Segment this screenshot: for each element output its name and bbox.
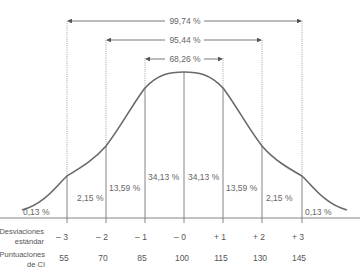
sd-tick: + 1 <box>214 232 226 242</box>
sd-tick: – 2 <box>96 232 108 242</box>
range-68-label: 68,26 % <box>169 54 201 64</box>
band-0-p1-label: 34,13 % <box>188 172 220 182</box>
iq-tick: 130 <box>253 253 267 263</box>
sd-row-label-line1: Desviaciones <box>0 227 44 236</box>
iq-row-label-line2: de CI <box>27 260 45 269</box>
iq-tick: 70 <box>98 253 108 263</box>
iq-tick: 115 <box>214 253 228 263</box>
range-95-label: 95,44 % <box>169 35 201 45</box>
iq-tick: 100 <box>175 253 189 263</box>
iq-tick: 145 <box>292 253 306 263</box>
band-p2-p3-label: 2,15 % <box>266 193 293 203</box>
band-tail-right-label: 0,13 % <box>305 207 332 217</box>
band-p1-p2-label: 13,59 % <box>226 183 258 193</box>
band-m1-0-label: 34,13 % <box>148 172 180 182</box>
sd-tick: – 0 <box>174 232 186 242</box>
iq-tick: 85 <box>137 253 147 263</box>
band-m3-m2-label: 2,15 % <box>77 193 104 203</box>
sd-tick: + 3 <box>292 232 304 242</box>
sd-row-label-line2: estándar <box>15 237 45 246</box>
sd-tick: – 1 <box>135 232 147 242</box>
iq-row-label-line1: Puntuaciones <box>0 250 45 259</box>
sd-tick: + 2 <box>253 232 265 242</box>
iq-tick: 55 <box>59 253 69 263</box>
normal-distribution-diagram: 99,74 % 95,44 % 68,26 % 0,13 % 2,15 % 13… <box>0 0 360 276</box>
band-tail-left-label: 0,13 % <box>23 207 50 217</box>
bell-curve <box>22 72 347 210</box>
range-99-label: 99,74 % <box>169 16 201 26</box>
sd-tick: – 3 <box>56 232 68 242</box>
band-m2-m1-label: 13,59 % <box>109 183 141 193</box>
